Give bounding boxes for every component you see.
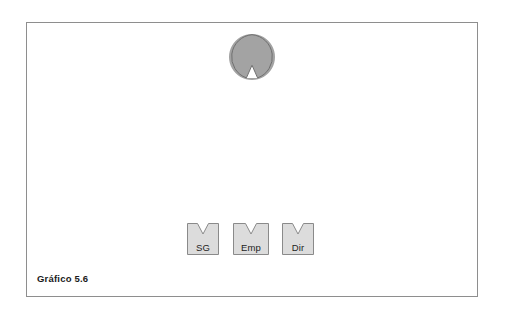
notched-box-icon [282,223,314,255]
figure-caption: Gráfico 5.6 [37,273,88,284]
node-box-dir[interactable]: Dir [282,223,314,255]
notched-box-icon [187,223,219,255]
figure-root: SG Emp Dir Gráfico 5.6 [0,0,505,316]
node-box-sg[interactable]: SG [187,223,219,255]
node-row: SG Emp Dir [27,223,479,257]
notched-circle-shape [229,34,275,80]
notched-circle-icon [229,34,275,80]
node-box-emp[interactable]: Emp [233,223,269,255]
notched-box-icon [233,223,269,255]
figure-frame: SG Emp Dir Gráfico 5.6 [26,22,478,297]
